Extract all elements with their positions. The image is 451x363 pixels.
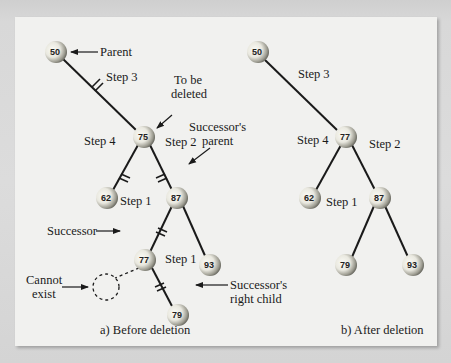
edge-50-75 bbox=[62, 58, 136, 130]
node-87: 87 bbox=[166, 187, 188, 209]
svg-text:93: 93 bbox=[204, 260, 214, 270]
edge-75-87 bbox=[150, 145, 172, 190]
node-b-79: 79 bbox=[335, 254, 357, 276]
label-cannot: Cannot bbox=[26, 273, 63, 287]
node-62: 62 bbox=[96, 187, 118, 209]
node-50: 50 bbox=[45, 41, 67, 63]
svg-text:75: 75 bbox=[138, 132, 148, 142]
node-93: 93 bbox=[199, 254, 221, 276]
svg-text:77: 77 bbox=[139, 255, 149, 265]
edge-75-62 bbox=[113, 145, 138, 190]
label-b-step3: Step 3 bbox=[298, 67, 330, 81]
node-b-62: 62 bbox=[299, 187, 321, 209]
svg-text:77: 77 bbox=[340, 132, 350, 142]
dashed-edge-77-left bbox=[115, 268, 139, 278]
panel-b-nodes: 50 77 62 87 79 93 bbox=[247, 41, 424, 276]
label-b-step4: Step 4 bbox=[297, 133, 329, 147]
svg-text:50: 50 bbox=[50, 47, 60, 57]
label-b-step1: Step 1 bbox=[326, 195, 358, 209]
svg-text:62: 62 bbox=[304, 193, 314, 203]
svg-text:87: 87 bbox=[374, 193, 384, 203]
edge-b-77-62 bbox=[316, 145, 341, 190]
edge-b-87-93 bbox=[385, 206, 408, 257]
node-b-93: 93 bbox=[402, 254, 424, 276]
node-77-successor: 77 bbox=[134, 249, 156, 271]
svg-text:87: 87 bbox=[171, 193, 181, 203]
edge-87-93 bbox=[183, 206, 206, 258]
svg-text:79: 79 bbox=[172, 310, 182, 320]
svg-text:50: 50 bbox=[252, 47, 262, 57]
caption-after-deletion: b) After deletion bbox=[341, 323, 424, 337]
svg-text:62: 62 bbox=[101, 193, 111, 203]
label-parent-2: parent bbox=[202, 134, 234, 148]
label-successor: Successor bbox=[47, 224, 98, 238]
label-exist: exist bbox=[32, 287, 56, 301]
svg-text:93: 93 bbox=[407, 260, 417, 270]
edge-b-87-79 bbox=[352, 206, 374, 257]
label-step1-a: Step 1 bbox=[120, 194, 152, 208]
label-deleted: deleted bbox=[171, 87, 208, 101]
caption-before-deletion: a) Before deletion bbox=[100, 323, 191, 337]
label-successors-rc-2: right child bbox=[230, 292, 282, 306]
label-step1-b: Step 1 bbox=[165, 252, 197, 266]
label-parent: Parent bbox=[100, 45, 132, 59]
label-step2: Step 2 bbox=[165, 135, 197, 149]
arrow-to-be-deleted bbox=[157, 115, 172, 128]
label-successors-rc-1: Successor's bbox=[230, 278, 287, 292]
label-to-be: To be bbox=[174, 73, 202, 87]
node-b-50: 50 bbox=[247, 41, 269, 63]
label-step3: Step 3 bbox=[106, 70, 138, 84]
node-b-87: 87 bbox=[369, 187, 391, 209]
arrow-successors-parent bbox=[189, 148, 210, 164]
label-successors: Successor's bbox=[189, 120, 246, 134]
bst-deletion-diagram: 50 75 62 87 77 93 79 50 77 62 87 79 93 P… bbox=[0, 0, 451, 363]
edge-b-77-87 bbox=[352, 145, 375, 190]
node-75: 75 bbox=[133, 126, 155, 148]
panel-b-edges bbox=[265, 60, 408, 257]
svg-text:79: 79 bbox=[340, 260, 350, 270]
label-step4: Step 4 bbox=[84, 134, 116, 148]
label-b-step2: Step 2 bbox=[369, 137, 401, 151]
panel-a-labels: Parent Step 3 To be deleted Successor's … bbox=[26, 45, 287, 337]
node-b-77: 77 bbox=[335, 126, 357, 148]
